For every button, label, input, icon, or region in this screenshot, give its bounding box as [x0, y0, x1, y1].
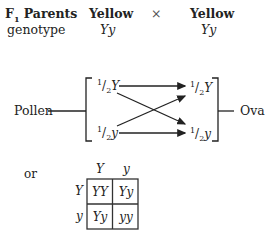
pollen-label: Pollen	[14, 103, 53, 118]
col-header-y: y	[123, 162, 130, 176]
punnett-cell-Yy-top: Yy	[113, 180, 139, 204]
col-header-Y: Y	[96, 162, 104, 176]
pollen-gamete-Y: 1/2Y	[97, 78, 119, 95]
punnett-cell-Yy-bottom: Yy	[87, 205, 113, 229]
punnett-cell-YY: YY	[87, 180, 113, 204]
punnett-cell-yy: yy	[113, 205, 139, 229]
ova-label: Ova	[240, 103, 265, 118]
pollen-gamete-y: 1/2y	[97, 125, 118, 142]
or-connector: or	[24, 167, 37, 181]
row-header-y: y	[76, 209, 83, 223]
ova-gamete-y: 1/2y	[190, 126, 211, 143]
row-header-Y: Y	[75, 184, 83, 198]
ova-gamete-Y: 1/2Y	[190, 80, 212, 97]
